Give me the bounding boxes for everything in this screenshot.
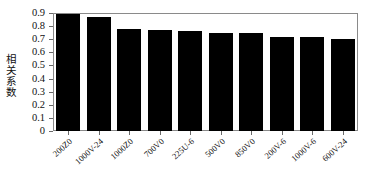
y-tick-label: 0.1	[32, 112, 45, 124]
x-axis-labels: 200Z01000V-241000Z0700V0225U-6500V0850V0…	[53, 131, 358, 176]
y-tick-label: 0.8	[32, 20, 45, 32]
bar	[148, 30, 172, 131]
bar	[270, 37, 294, 131]
y-tick-label: 0	[40, 125, 45, 137]
y-tick-label: 0.4	[32, 73, 45, 85]
x-tick-mark	[251, 131, 252, 135]
bar	[331, 39, 355, 131]
bar	[178, 31, 202, 131]
x-tick-mark	[129, 131, 130, 135]
bar	[87, 17, 111, 131]
bar	[56, 14, 80, 131]
bars-container	[53, 13, 358, 131]
x-tick-mark	[160, 131, 161, 135]
y-tick-label: 0.6	[32, 46, 45, 58]
bar	[209, 33, 233, 131]
x-tick-mark	[343, 131, 344, 135]
y-tick-label: 0.7	[32, 33, 45, 45]
x-tick-mark	[99, 131, 100, 135]
bar	[117, 29, 141, 131]
bar-chart: 相关系数 0.90.80.70.60.50.40.30.20.10 200Z01…	[0, 0, 375, 176]
bar	[239, 33, 263, 131]
x-tick-mark	[282, 131, 283, 135]
y-tick-label: 0.2	[32, 99, 45, 111]
x-tick-mark	[312, 131, 313, 135]
y-tick-label: 0.3	[32, 86, 45, 98]
y-tick-label: 0.9	[32, 7, 45, 19]
bar	[300, 37, 324, 131]
y-axis-ticks: 0.90.80.70.60.50.40.30.20.10	[0, 0, 53, 176]
x-tick-mark	[190, 131, 191, 135]
y-tick-label: 0.5	[32, 59, 45, 71]
x-tick-mark	[68, 131, 69, 135]
x-tick-mark	[221, 131, 222, 135]
